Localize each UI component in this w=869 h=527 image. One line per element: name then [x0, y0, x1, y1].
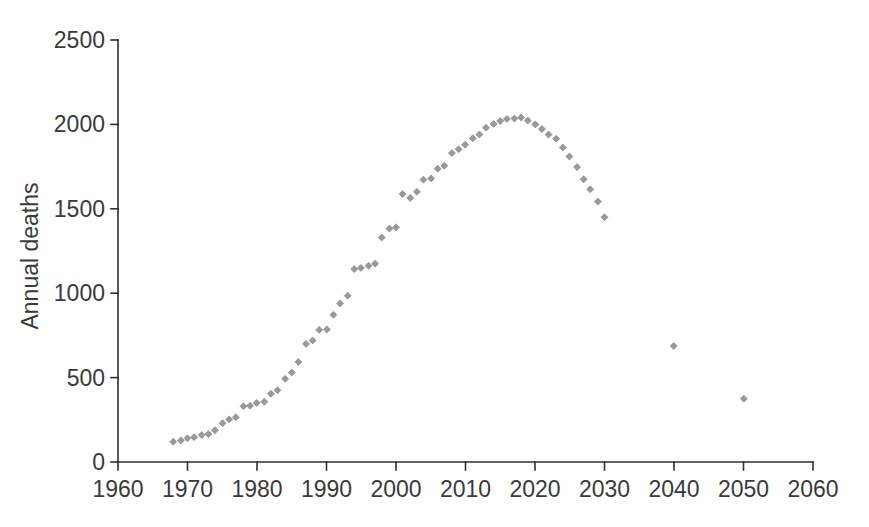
- data-point: [282, 375, 289, 382]
- x-tick-label: 2050: [718, 476, 769, 502]
- data-point: [545, 131, 552, 138]
- data-point: [219, 420, 226, 427]
- data-point: [344, 292, 351, 299]
- y-tick-label: 500: [67, 365, 105, 391]
- data-point: [261, 398, 268, 405]
- x-tick-label: 2000: [370, 476, 421, 502]
- data-point: [240, 403, 247, 410]
- data-point: [574, 164, 581, 171]
- data-point: [177, 437, 184, 444]
- data-point: [587, 186, 594, 193]
- data-point: [211, 427, 218, 434]
- x-tick-label: 2030: [579, 476, 630, 502]
- data-point: [372, 260, 379, 267]
- data-point: [538, 126, 545, 133]
- x-tick-label: 2010: [440, 476, 491, 502]
- data-point: [448, 150, 455, 157]
- data-point: [566, 153, 573, 160]
- x-tick-label: 1970: [162, 476, 213, 502]
- data-point: [469, 135, 476, 142]
- data-point: [476, 131, 483, 138]
- data-point: [378, 234, 385, 241]
- data-point: [357, 264, 364, 271]
- data-point: [198, 432, 205, 439]
- data-point: [503, 115, 510, 122]
- data-point: [497, 118, 504, 125]
- y-tick-label: 1000: [54, 280, 105, 306]
- data-point: [553, 135, 560, 142]
- x-tick-label: 2060: [787, 476, 838, 502]
- data-point: [365, 262, 372, 269]
- y-axis: 05001000150020002500: [54, 27, 118, 475]
- data-point: [420, 176, 427, 183]
- data-point: [274, 387, 281, 394]
- data-point: [407, 194, 414, 201]
- y-axis-title: Annual deaths: [17, 182, 43, 329]
- data-point: [247, 402, 254, 409]
- data-point: [399, 191, 406, 198]
- data-point: [511, 115, 518, 122]
- data-point: [288, 369, 295, 376]
- data-point: [232, 414, 239, 421]
- data-point: [428, 175, 435, 182]
- x-tick-label: 1980: [231, 476, 282, 502]
- x-tick-label: 1990: [301, 476, 352, 502]
- data-point: [559, 144, 566, 151]
- data-point: [191, 434, 198, 441]
- data-point: [323, 326, 330, 333]
- data-point: [393, 224, 400, 231]
- data-point: [337, 300, 344, 307]
- data-point: [226, 416, 233, 423]
- data-point: [462, 141, 469, 148]
- scatter-chart: 05001000150020002500 1960197019801990200…: [0, 0, 869, 527]
- x-axis: 1960197019801990200020102020203020402050…: [92, 462, 838, 502]
- y-tick-label: 1500: [54, 196, 105, 222]
- chart-figure: 05001000150020002500 1960197019801990200…: [0, 0, 869, 527]
- data-point: [518, 114, 525, 121]
- data-point: [524, 117, 531, 124]
- data-point: [253, 399, 260, 406]
- data-point: [594, 198, 601, 205]
- data-point: [490, 120, 497, 127]
- data-point: [483, 124, 490, 131]
- data-point: [330, 311, 337, 318]
- data-point: [434, 165, 441, 172]
- data-point: [309, 337, 316, 344]
- y-tick-label: 2000: [54, 111, 105, 137]
- data-point: [316, 326, 323, 333]
- data-point: [740, 395, 747, 402]
- data-points: [170, 114, 748, 445]
- data-point: [295, 359, 302, 366]
- data-point: [413, 188, 420, 195]
- x-tick-label: 2040: [648, 476, 699, 502]
- data-point: [601, 214, 608, 221]
- data-point: [532, 121, 539, 128]
- data-point: [267, 390, 274, 397]
- y-tick-label: 2500: [54, 27, 105, 53]
- data-point: [441, 162, 448, 169]
- x-tick-label: 1960: [92, 476, 143, 502]
- data-point: [184, 435, 191, 442]
- data-point: [205, 431, 212, 438]
- data-point: [670, 342, 677, 349]
- data-point: [455, 146, 462, 153]
- data-point: [351, 266, 358, 273]
- data-point: [303, 340, 310, 347]
- data-point: [580, 176, 587, 183]
- y-tick-label: 0: [92, 449, 105, 475]
- x-tick-label: 2020: [509, 476, 560, 502]
- data-point: [170, 438, 177, 445]
- data-point: [386, 225, 393, 232]
